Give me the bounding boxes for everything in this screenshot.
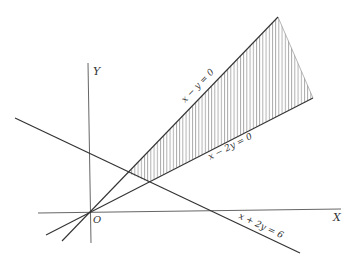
- linear-inequality-diagram: Y X O x − y = 0 x − 2y = 0 x + 2y = 6: [0, 0, 357, 266]
- line-x-plus-2y: [15, 118, 300, 253]
- origin-label: O: [93, 214, 101, 225]
- shaded-feasible-region: [128, 17, 313, 182]
- x-axis-label: X: [332, 211, 342, 224]
- label-x-plus-2y: x + 2y = 6: [237, 211, 285, 241]
- x-axis: [38, 209, 341, 213]
- y-axis-label: Y: [93, 65, 102, 78]
